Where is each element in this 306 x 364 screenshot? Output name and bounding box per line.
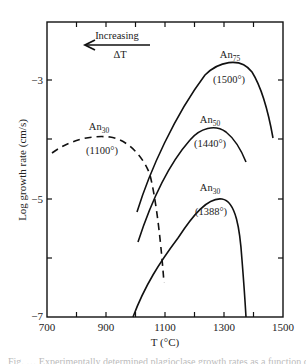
curve-temp-an50: (1440°) <box>194 138 227 150</box>
x-ticks <box>77 22 254 317</box>
x-tick-label: 700 <box>39 321 56 333</box>
curve-temp-an30-1388: (1388°) <box>195 206 228 218</box>
y-tick-label: −3 <box>31 74 43 86</box>
y-ticks <box>47 80 283 258</box>
curve-label-an50: An50 <box>200 114 221 128</box>
arrow-label-delta-t: ΔT <box>113 49 127 60</box>
x-tick-label: 1500 <box>272 321 295 333</box>
y-tick-label: −7 <box>31 310 43 322</box>
figure-caption-partial: Fig. … Experimentally determined plagioc… <box>8 356 306 364</box>
x-axis-label: T (°C) <box>151 336 180 349</box>
x-tick-label: 1100 <box>154 321 176 333</box>
curve-label-an30-dashed: An30 <box>89 121 110 135</box>
curve-an30-1388 <box>133 199 246 317</box>
y-tick-label: −5 <box>31 193 43 205</box>
curve-label-an30: An30 <box>200 182 221 196</box>
curve-temp-an30-1100: (1100°) <box>86 145 118 157</box>
curve-an30-1100-dashed <box>52 137 164 283</box>
y-axis-label: Log growth rate (cm/s) <box>16 119 29 221</box>
growth-rate-chart: 700 900 1100 1300 1500 −3 −5 −7 T (°C) L… <box>0 0 306 364</box>
x-tick-label: 900 <box>98 321 115 333</box>
x-tick-label: 1300 <box>213 321 236 333</box>
plot-frame <box>47 22 283 317</box>
curve-an50 <box>138 128 246 242</box>
curve-label-an75: An75 <box>220 49 241 63</box>
arrow-label-increasing: Increasing <box>95 30 139 41</box>
curve-temp-an75: (1500°) <box>213 74 246 86</box>
